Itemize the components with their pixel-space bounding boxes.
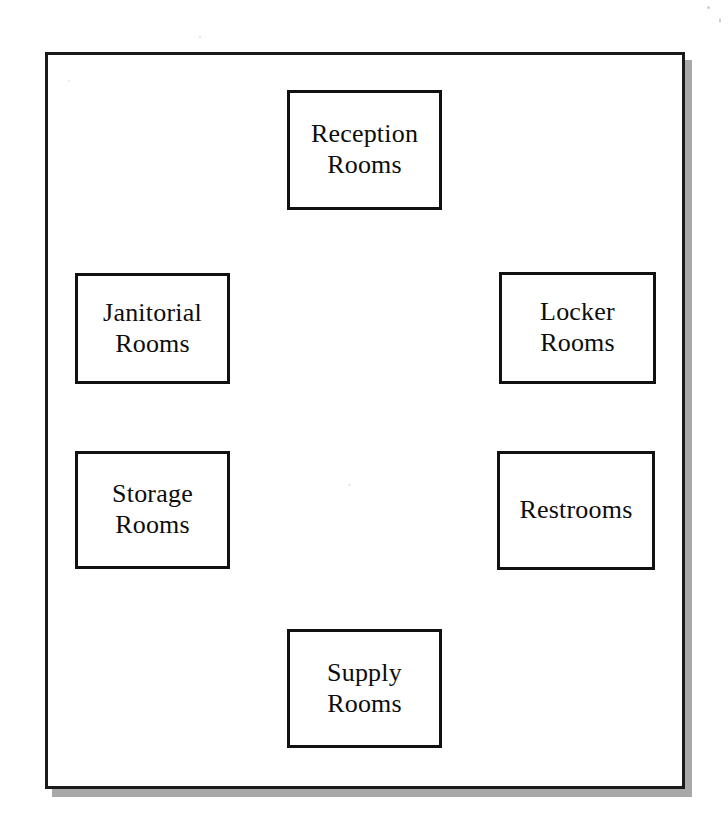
- scan-speck-icon: [68, 80, 70, 82]
- room-label-reception: Reception Rooms: [307, 119, 422, 180]
- room-label-storage: Storage Rooms: [108, 479, 197, 540]
- room-box-janitorial[interactable]: Janitorial Rooms: [75, 273, 230, 384]
- room-label-supply: Supply Rooms: [323, 658, 406, 719]
- scan-speck-icon: [348, 484, 351, 486]
- room-box-restrooms[interactable]: Restrooms: [497, 451, 655, 570]
- room-label-locker: Locker Rooms: [536, 297, 619, 358]
- room-label-restrooms: Restrooms: [515, 495, 636, 526]
- room-box-reception[interactable]: Reception Rooms: [287, 90, 442, 210]
- room-label-janitorial: Janitorial Rooms: [99, 298, 206, 359]
- scan-speck-icon: [719, 18, 721, 23]
- diagram-canvas: Reception Rooms Janitorial Rooms Locker …: [0, 0, 728, 837]
- scan-speck-icon: [199, 36, 201, 38]
- scan-speck-icon: [707, 6, 710, 9]
- room-box-locker[interactable]: Locker Rooms: [499, 272, 656, 384]
- room-box-storage[interactable]: Storage Rooms: [75, 451, 230, 569]
- room-box-supply[interactable]: Supply Rooms: [287, 629, 442, 748]
